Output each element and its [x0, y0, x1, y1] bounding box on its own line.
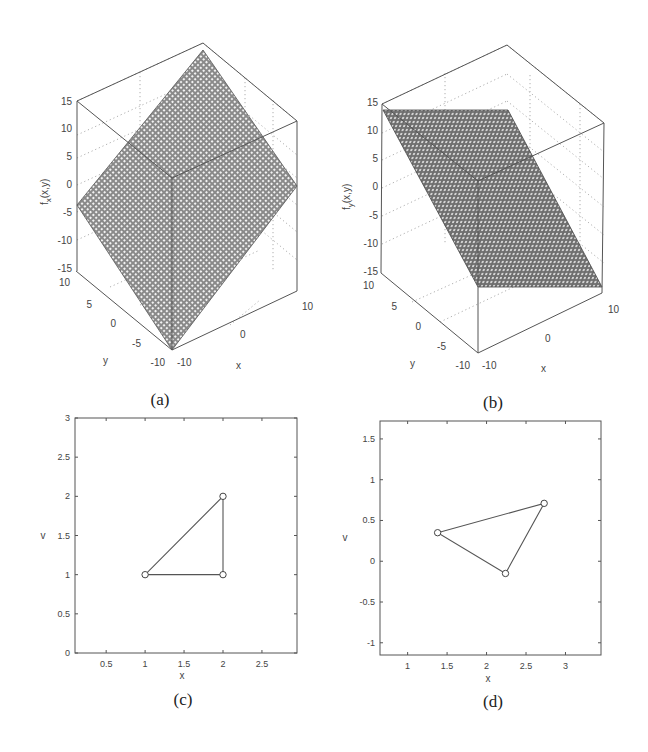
caption-b: (b)	[483, 393, 503, 412]
y-tick-label: 1	[65, 570, 70, 580]
svg-text:-10: -10	[58, 235, 73, 246]
svg-text:-5: -5	[369, 210, 378, 221]
panel-c-triangle	[142, 493, 226, 578]
vertex-marker	[142, 571, 148, 577]
svg-text:5: 5	[66, 151, 72, 162]
y-tick-label: 2	[65, 491, 70, 501]
y-tick-label: 0.5	[57, 609, 70, 619]
panel-a-z-ticks: 15 10 5 0 -5 -10 -15	[58, 96, 73, 274]
x-tick-label: 1	[143, 659, 148, 669]
svg-text:0: 0	[240, 329, 246, 340]
svg-text:10: 10	[61, 123, 73, 134]
panel-d-ylabel: v	[343, 532, 348, 543]
svg-text:0: 0	[372, 181, 378, 192]
caption-c: (c)	[174, 690, 193, 709]
svg-text:0: 0	[66, 179, 72, 190]
svg-text:5: 5	[372, 153, 378, 164]
svg-text:-5: -5	[437, 341, 446, 352]
svg-text:0: 0	[110, 318, 116, 329]
panel-a-zlabel: fx(x,y)	[39, 179, 53, 205]
panel-d-xlabel: x	[486, 673, 491, 684]
x-tick-label: 1.5	[178, 659, 191, 669]
svg-text:-10: -10	[456, 360, 471, 371]
x-tick-label: 2.5	[256, 659, 269, 669]
panel-c-xlabel: x	[180, 670, 185, 681]
triangle-outline	[438, 503, 545, 573]
svg-text:-5: -5	[63, 207, 72, 218]
svg-text:15: 15	[367, 97, 379, 108]
panel-b-surface	[383, 110, 602, 287]
svg-text:5: 5	[86, 299, 92, 310]
svg-text:0: 0	[545, 333, 551, 344]
vertex-marker	[434, 530, 440, 536]
svg-text:0: 0	[415, 321, 421, 332]
y-tick-label: 3	[65, 413, 70, 423]
svg-text:-10: -10	[151, 357, 166, 368]
panel-c-2d-plot: 0.511.522.500.511.522.53 x v	[41, 413, 298, 681]
panel-c-ticks: 0.511.522.500.511.522.53	[57, 413, 297, 669]
y-tick-label: 1	[370, 475, 375, 485]
panel-a-xlabel: x	[236, 360, 241, 371]
vertex-marker	[502, 570, 508, 576]
svg-text:10: 10	[363, 280, 375, 291]
panel-b-xlabel: x	[541, 363, 546, 374]
tick-z-15: 15	[61, 96, 73, 107]
x-tick-label: 1	[405, 661, 410, 671]
y-tick-label: -1	[367, 638, 375, 648]
y-tick-label: 0	[370, 556, 375, 566]
svg-text:-10: -10	[177, 357, 192, 368]
figure: 15 10 5 0 -5 -10 -15 10 5 0 -5 -10 -10 0…	[0, 0, 648, 752]
x-tick-label: 0.5	[100, 659, 113, 669]
panel-b-z-ticks: 15 10 5 0 -5 -10 -15	[364, 97, 379, 277]
panel-c-axes-box	[75, 418, 297, 653]
svg-text:-10: -10	[364, 238, 379, 249]
panel-a-ylabel: y	[103, 355, 108, 366]
svg-text:10: 10	[608, 304, 620, 315]
panel-d-axes-box	[380, 421, 601, 655]
svg-text:-15: -15	[58, 263, 73, 274]
vertex-marker	[541, 500, 547, 506]
y-tick-label: 1.5	[57, 531, 70, 541]
panel-d-ticks: 11.522.53-1-0.500.511.5	[359, 421, 601, 671]
y-tick-label: 0.5	[362, 515, 375, 525]
panel-a-3d-plot: 15 10 5 0 -5 -10 -15 10 5 0 -5 -10 -10 0…	[39, 43, 314, 371]
svg-text:10: 10	[59, 277, 71, 288]
panel-d-triangle	[434, 500, 547, 577]
panel-c-ylabel: v	[41, 530, 46, 541]
vertex-marker	[220, 571, 226, 577]
caption-a: (a)	[151, 390, 170, 409]
panel-a-surface	[77, 50, 297, 350]
panel-b-ylabel: y	[410, 358, 415, 369]
x-tick-label: 1.5	[441, 661, 454, 671]
caption-d: (d)	[483, 692, 503, 711]
x-tick-label: 2	[220, 659, 225, 669]
panel-b-zlabel: fy(x,y)	[341, 184, 355, 210]
y-tick-label: 2.5	[57, 452, 70, 462]
x-tick-label: 2.5	[520, 661, 533, 671]
vertex-marker	[220, 493, 226, 499]
panel-b-y-ticks: 10 5 0 -5 -10	[363, 280, 471, 371]
x-tick-label: 2	[484, 661, 489, 671]
svg-text:-5: -5	[132, 338, 141, 349]
panel-b-x-ticks: -10 0 10	[482, 304, 620, 371]
svg-text:-15: -15	[364, 266, 379, 277]
svg-text:10: 10	[367, 125, 379, 136]
panel-d-2d-plot: 11.522.53-1-0.500.511.5 x v	[343, 421, 602, 684]
triangle-outline	[145, 496, 223, 574]
y-tick-label: -0.5	[359, 597, 375, 607]
svg-text:10: 10	[302, 301, 314, 312]
svg-text:5: 5	[391, 301, 397, 312]
y-tick-label: 0	[65, 648, 70, 658]
svg-text:-10: -10	[482, 360, 497, 371]
x-tick-label: 3	[563, 661, 568, 671]
y-tick-label: 1.5	[362, 434, 375, 444]
panel-b-3d-plot: 15 10 5 0 -5 -10 -15 10 5 0 -5 -10 -10 0…	[341, 45, 620, 374]
